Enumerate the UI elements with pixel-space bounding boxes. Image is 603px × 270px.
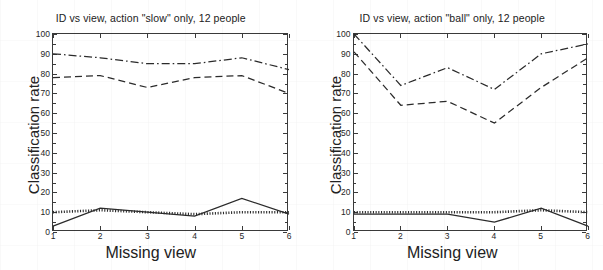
chart-title: ID vs view, action "ball" only, 12 peopl… bbox=[302, 12, 603, 24]
y-axis-tick-label: 100 bbox=[36, 29, 50, 39]
y-axis-tick-label: 60 bbox=[41, 108, 50, 118]
chart-panel-ball: ID vs view, action "ball" only, 12 peopl… bbox=[302, 0, 603, 270]
x-axis-tick-top bbox=[289, 34, 290, 38]
y-axis-tick-label: 80 bbox=[41, 69, 50, 79]
series-line-dotted-baseline bbox=[354, 210, 588, 212]
y-axis-tick-label: 0 bbox=[346, 227, 351, 237]
series-line-dashed-middle bbox=[53, 76, 289, 94]
y-axis-label: Classification rate bbox=[25, 50, 42, 220]
y-axis-tick-label: 100 bbox=[336, 29, 350, 39]
y-axis-tick-label: 70 bbox=[41, 88, 50, 98]
plot-area: 0102030405060708090100123456 bbox=[353, 33, 587, 231]
y-axis-tick-label: 30 bbox=[341, 168, 350, 178]
y-axis-tick-label: 10 bbox=[341, 207, 350, 217]
x-axis-tick-label: 6 bbox=[585, 231, 590, 241]
x-axis-tick-label: 3 bbox=[145, 231, 150, 241]
plot-area: 0102030405060708090100123456 bbox=[52, 33, 288, 231]
chart-title: ID vs view, action "slow" only, 12 peopl… bbox=[0, 12, 302, 24]
x-axis-tick-label: 2 bbox=[98, 231, 103, 241]
y-axis-tick-label: 50 bbox=[41, 128, 50, 138]
x-axis-tick-label: 1 bbox=[51, 231, 56, 241]
series-line-dashed-middle bbox=[354, 52, 588, 123]
y-axis-tick-label: 0 bbox=[45, 227, 50, 237]
y-axis-tick-label: 60 bbox=[341, 108, 350, 118]
x-axis-tick-label: 5 bbox=[538, 231, 543, 241]
x-axis-tick-label: 5 bbox=[239, 231, 244, 241]
y-axis-label-wrap: Classification rate bbox=[8, 0, 32, 270]
y-axis-label-wrap: Classification rate bbox=[310, 0, 334, 270]
y-axis-tick-label: 20 bbox=[341, 187, 350, 197]
x-axis-tick-label: 2 bbox=[398, 231, 403, 241]
y-axis-tick-label: 40 bbox=[341, 148, 350, 158]
x-axis-tick bbox=[588, 226, 589, 230]
x-axis-tick-top bbox=[588, 34, 589, 38]
y-axis-tick-label: 10 bbox=[41, 207, 50, 217]
y-axis-tick-label: 50 bbox=[341, 128, 350, 138]
y-axis-tick-label: 80 bbox=[341, 69, 350, 79]
x-axis-label: Missing view bbox=[0, 244, 302, 262]
x-axis-tick-label: 6 bbox=[287, 231, 292, 241]
x-axis-label: Missing view bbox=[302, 244, 603, 262]
x-axis-tick-label: 3 bbox=[445, 231, 450, 241]
figure-two-line-charts: ID vs view, action "slow" only, 12 peopl… bbox=[0, 0, 603, 270]
series-line-dash-dot-upper bbox=[354, 34, 588, 89]
y-axis-tick-label: 30 bbox=[41, 168, 50, 178]
chart-panel-slow: ID vs view, action "slow" only, 12 peopl… bbox=[0, 0, 302, 270]
x-axis-tick-label: 4 bbox=[192, 231, 197, 241]
x-axis-tick-label: 4 bbox=[492, 231, 497, 241]
series-layer bbox=[53, 34, 289, 232]
x-axis-tick bbox=[289, 226, 290, 230]
y-axis-tick-label: 40 bbox=[41, 148, 50, 158]
series-line-dash-dot-upper bbox=[53, 54, 289, 70]
x-axis-tick-label: 1 bbox=[351, 231, 356, 241]
y-axis-tick-label: 90 bbox=[41, 49, 50, 59]
y-axis-tick-label: 70 bbox=[341, 88, 350, 98]
y-axis-tick-label: 90 bbox=[341, 49, 350, 59]
y-axis-tick-label: 20 bbox=[41, 187, 50, 197]
series-layer bbox=[354, 34, 588, 232]
